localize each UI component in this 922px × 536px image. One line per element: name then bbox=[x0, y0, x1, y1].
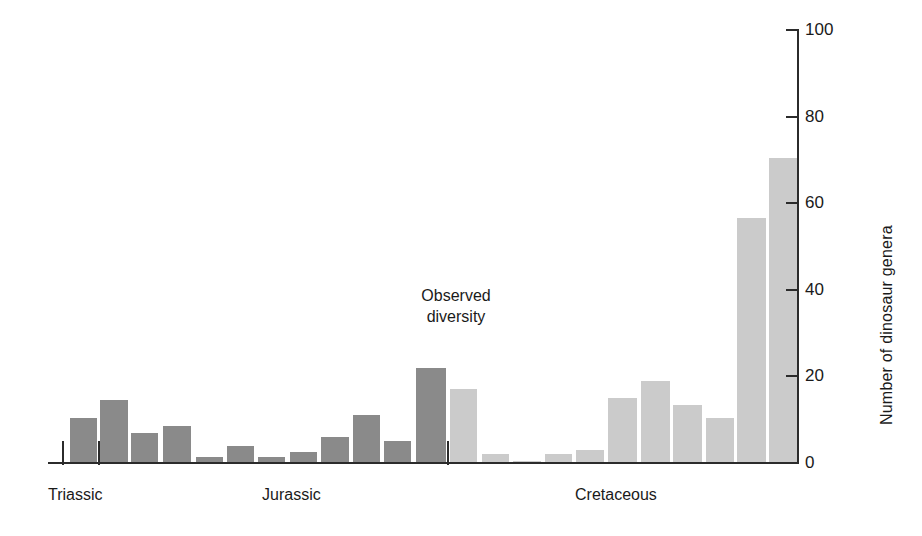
annotation-line-2: diversity bbox=[392, 306, 520, 327]
bar-j9 bbox=[416, 368, 446, 463]
bar-k9 bbox=[706, 418, 734, 463]
bar-k8 bbox=[673, 405, 702, 463]
y-tick-label-80: 80 bbox=[805, 108, 824, 125]
bar-t3 bbox=[131, 433, 158, 463]
y-tick-label-100: 100 bbox=[805, 21, 833, 38]
y-axis-line bbox=[797, 29, 799, 464]
period-boundary-tick-3 bbox=[447, 441, 449, 465]
bar-k10 bbox=[737, 218, 766, 463]
bar-t2 bbox=[100, 400, 128, 463]
y-tick-20 bbox=[786, 375, 798, 377]
bar-k6 bbox=[608, 398, 637, 463]
period-label-cretaceous: Cretaceous bbox=[575, 486, 657, 504]
bar-j3 bbox=[227, 446, 254, 463]
period-boundary-tick-2 bbox=[98, 441, 100, 465]
x-axis-line bbox=[48, 462, 797, 464]
dinosaur-diversity-chart: 100806040200 TriassicJurassicCretaceous … bbox=[0, 0, 922, 536]
y-tick-label-40: 40 bbox=[805, 281, 824, 298]
plot-area: 100806040200 TriassicJurassicCretaceous … bbox=[0, 0, 922, 536]
period-label-jurassic: Jurassic bbox=[262, 486, 321, 504]
bars-layer bbox=[0, 0, 922, 463]
y-tick-0 bbox=[786, 462, 798, 464]
y-tick-80 bbox=[786, 116, 798, 118]
observed-diversity-annotation: Observed diversity bbox=[392, 285, 520, 327]
y-tick-100 bbox=[786, 29, 798, 31]
bar-j1 bbox=[163, 426, 191, 463]
bar-k1 bbox=[450, 389, 477, 463]
bar-j8 bbox=[384, 441, 411, 463]
y-tick-label-20: 20 bbox=[805, 367, 824, 384]
y-tick-40 bbox=[786, 289, 798, 291]
bar-k7 bbox=[641, 381, 670, 463]
bar-j7 bbox=[353, 415, 380, 463]
period-label-triassic: Triassic bbox=[48, 486, 103, 504]
bar-j6 bbox=[321, 437, 349, 463]
y-tick-label-60: 60 bbox=[805, 194, 824, 211]
annotation-line-1: Observed bbox=[392, 285, 520, 306]
y-axis-title: Number of dinosaur genera bbox=[878, 225, 896, 425]
period-boundary-tick-1 bbox=[62, 441, 64, 465]
y-tick-label-0: 0 bbox=[805, 454, 814, 471]
bar-t1 bbox=[70, 418, 97, 463]
y-tick-60 bbox=[786, 202, 798, 204]
